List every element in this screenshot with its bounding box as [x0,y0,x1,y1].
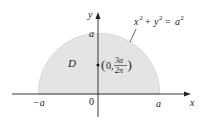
svg-text:x: x [133,16,139,27]
svg-text:): ) [128,57,132,72]
pos-a-label: a [156,98,161,109]
leader-line [130,29,136,42]
svg-text:2: 2 [181,14,184,21]
neg-a-label: −a [33,97,45,108]
circle-equation: x 2 + y 2 = a 2 [133,14,184,27]
origin-label: 0 [89,96,94,107]
svg-text:2: 2 [159,14,162,21]
svg-text:a: a [175,16,180,27]
svg-text:3a: 3a [114,56,123,65]
centroid-point [96,63,99,66]
region-label: D [67,57,76,69]
semicircle-region [38,33,160,94]
svg-text:2: 2 [140,14,143,21]
svg-text:+: + [145,16,151,27]
x-axis-label: x [189,97,195,108]
y-axis-arrow-icon [96,12,101,19]
svg-text:2π: 2π [115,66,124,75]
x-axis-arrow-icon [184,92,191,97]
svg-text:0,: 0, [106,60,114,71]
y-axis-label: y [87,9,93,20]
svg-text:=: = [165,16,171,27]
top-a-label: a [89,28,94,39]
svg-text:(: ( [101,57,105,72]
semicircle-diagram: y x a −a 0 a D x 2 + y 2 = a 2 ( 0, 3a 2… [0,0,204,122]
